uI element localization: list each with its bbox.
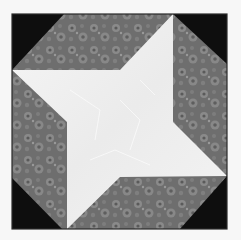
quilt-block-image — [0, 0, 241, 240]
